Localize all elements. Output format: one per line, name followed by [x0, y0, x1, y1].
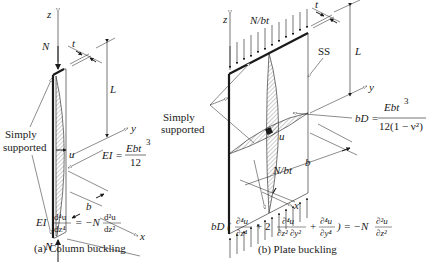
peq-plus2: + 2: [256, 220, 270, 232]
plate-b-label: b: [305, 156, 311, 168]
plate-z-label: z: [222, 13, 228, 25]
t-ext-a: [70, 54, 89, 64]
peq-prefix: bD (: [211, 220, 232, 233]
plate-t-ext: [312, 8, 340, 22]
plate-support-line1: Simply: [163, 111, 195, 123]
eq-coef: EI: [35, 216, 48, 228]
x-axis-label: x: [139, 230, 145, 242]
plate-caption: (b) Plate buckling: [258, 243, 337, 256]
ss-pointer: [308, 58, 323, 77]
plate-equation: bD ( ∂⁴u ∂z⁴ + 2 ∂⁴u ∂z² ∂y² + ∂⁴u ∂y⁴ )…: [211, 216, 392, 238]
support-pointer-top: [30, 78, 52, 127]
peq-t2-num: ∂⁴u: [282, 216, 295, 226]
plate-top-load-label: N/bt: [249, 14, 270, 26]
plate-b-ext: [310, 133, 357, 155]
peq-t3-den: ∂y⁴: [320, 228, 332, 238]
t-label: t: [72, 37, 76, 49]
L-top-ext: [96, 38, 115, 48]
EI-num-exp: 3: [146, 137, 151, 147]
EI-num: Ebt: [125, 142, 142, 154]
plate-figure: z N/bt u: [161, 0, 426, 258]
b-arrow-2: [96, 194, 104, 198]
buckling-diagram: z N u N Simply supported t L y: [0, 0, 428, 268]
plate-y-axis: [310, 86, 367, 113]
plate-t-ext-b: [313, 17, 334, 28]
plate-t-ext-a: [311, 15, 332, 26]
plate-L-ext: [334, 0, 360, 12]
eq-lhs-den: dz⁴: [54, 224, 66, 234]
b-label: b: [86, 200, 92, 212]
eq-lhs-num: d⁴u: [54, 212, 67, 222]
peq-t1-num: ∂⁴u: [236, 216, 249, 226]
bD-den: 12(1 − ν²): [379, 120, 423, 133]
peq-suffix: ) = −N: [336, 220, 369, 233]
plate-t-arrow-2: [330, 19, 337, 23]
bD-num-exp: 3: [404, 96, 409, 106]
peq-t2-den: ∂z² ∂y²: [277, 228, 301, 238]
plate-t-label: t: [315, 0, 319, 10]
peq-rhs-den: ∂z²: [376, 228, 387, 238]
EI-den: 12: [130, 156, 141, 168]
L-label: L: [109, 83, 116, 95]
plate-L-label: L: [354, 45, 361, 57]
plate-y-label: y: [368, 81, 374, 93]
EI-lhs: EI =: [101, 149, 123, 161]
z-axis-label: z: [46, 8, 52, 20]
column-figure: z N u N Simply supported t L y: [3, 8, 151, 262]
support-label-line2: supported: [3, 141, 47, 153]
peq-rhs-num: ∂²u: [376, 216, 388, 226]
peq-t3-num: ∂⁴u: [320, 216, 333, 226]
t-ext-b: [72, 56, 91, 66]
peq-t1-den: ∂z⁴: [236, 228, 247, 238]
b-ext-1: [68, 171, 108, 191]
bD-lhs: bD =: [355, 112, 379, 124]
eq-equals: = −N: [75, 216, 101, 228]
plate-deflection-label: u: [279, 130, 285, 142]
column-caption: (a) Column buckling: [34, 242, 126, 255]
eq-rhs-den: dz²: [104, 224, 115, 234]
ss-label: SS: [318, 45, 330, 57]
plate-support-pointer-left: [210, 98, 228, 105]
plate-x-label: x: [293, 199, 299, 211]
top-load-label: N: [41, 40, 50, 52]
y-axis-label: y: [130, 122, 136, 134]
plate-support-line2: supported: [161, 123, 205, 135]
support-label-line1: Simply: [5, 128, 37, 140]
bD-num: Ebt: [383, 101, 400, 113]
eq-rhs-num: d²u: [104, 212, 116, 222]
column-equation: EI d⁴u dz⁴ = −N d²u dz²: [35, 212, 121, 234]
peq-plus: +: [310, 220, 316, 232]
plate-t-arrow-1: [316, 12, 324, 16]
